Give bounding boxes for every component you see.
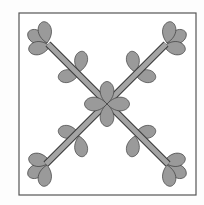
- quilt-block-illustration: [0, 0, 204, 205]
